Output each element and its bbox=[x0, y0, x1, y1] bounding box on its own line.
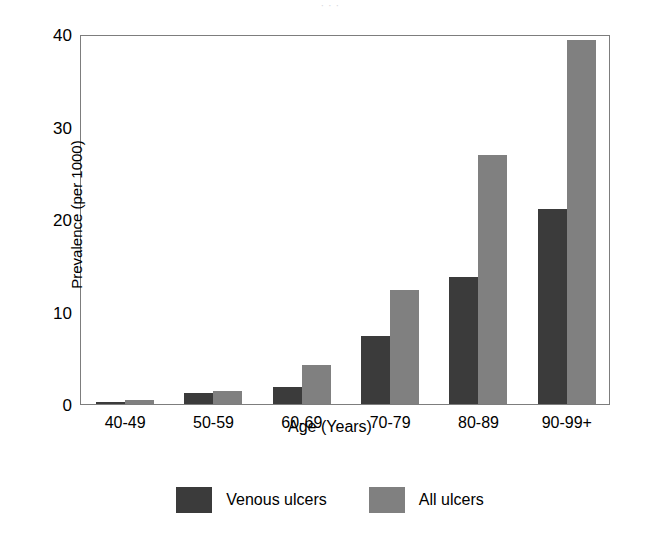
bar-group bbox=[258, 36, 346, 404]
bar-all-ulcers bbox=[125, 400, 154, 404]
bar-all-ulcers bbox=[567, 40, 596, 404]
bar-all-ulcers bbox=[213, 391, 242, 404]
chart-legend: Venous ulcersAll ulcers bbox=[0, 487, 660, 513]
plot-area: Prevalence (per 1000) 010203040 40-4950-… bbox=[80, 35, 610, 405]
bar-venous-ulcers bbox=[449, 277, 478, 404]
bar-group bbox=[81, 36, 169, 404]
legend-item: All ulcers bbox=[369, 487, 484, 513]
bar-all-ulcers bbox=[478, 155, 507, 404]
bar-group bbox=[434, 36, 522, 404]
legend-label: Venous ulcers bbox=[226, 491, 327, 509]
bars-layer bbox=[81, 36, 609, 404]
legend-item: Venous ulcers bbox=[176, 487, 327, 513]
bar-group bbox=[523, 36, 611, 404]
bar-group bbox=[169, 36, 257, 404]
figure-container: · · · Prevalence (per 1000) 010203040 40… bbox=[0, 0, 660, 537]
bar-group bbox=[346, 36, 434, 404]
bar-all-ulcers bbox=[302, 365, 331, 404]
bar-venous-ulcers bbox=[273, 387, 302, 404]
bar-all-ulcers bbox=[390, 290, 419, 404]
y-tick-label: 30 bbox=[53, 119, 72, 139]
bar-venous-ulcers bbox=[538, 209, 567, 404]
y-tick-label: 0 bbox=[63, 396, 72, 416]
y-tick-label: 40 bbox=[53, 26, 72, 46]
y-tick-label: 10 bbox=[53, 304, 72, 324]
legend-swatch-icon bbox=[176, 487, 212, 513]
bar-venous-ulcers bbox=[96, 402, 125, 404]
legend-label: All ulcers bbox=[419, 491, 484, 509]
x-axis-title: Age (Years) bbox=[0, 418, 660, 436]
bar-venous-ulcers bbox=[184, 393, 213, 404]
legend-swatch-icon bbox=[369, 487, 405, 513]
caption-remnant-text: · · · bbox=[0, 0, 660, 10]
y-tick-label: 20 bbox=[53, 211, 72, 231]
bar-venous-ulcers bbox=[361, 336, 390, 404]
